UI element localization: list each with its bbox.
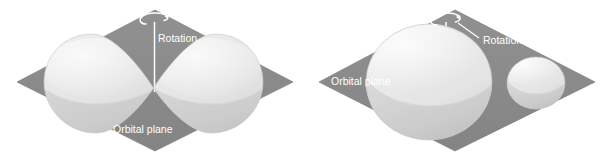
orbital-plane-label: Orbital plane xyxy=(113,123,173,135)
orbital-plane-label: Orbital plane xyxy=(331,75,391,87)
detached-binary-panel: Rotation Orbital plane xyxy=(307,0,614,163)
orbital-plane-figure: Rotation Orbital plane xyxy=(0,0,614,163)
rotation-label: Rotation xyxy=(483,34,522,46)
rotation-label: Rotation xyxy=(158,32,197,44)
contact-binary-panel: Rotation Orbital plane xyxy=(0,0,307,163)
